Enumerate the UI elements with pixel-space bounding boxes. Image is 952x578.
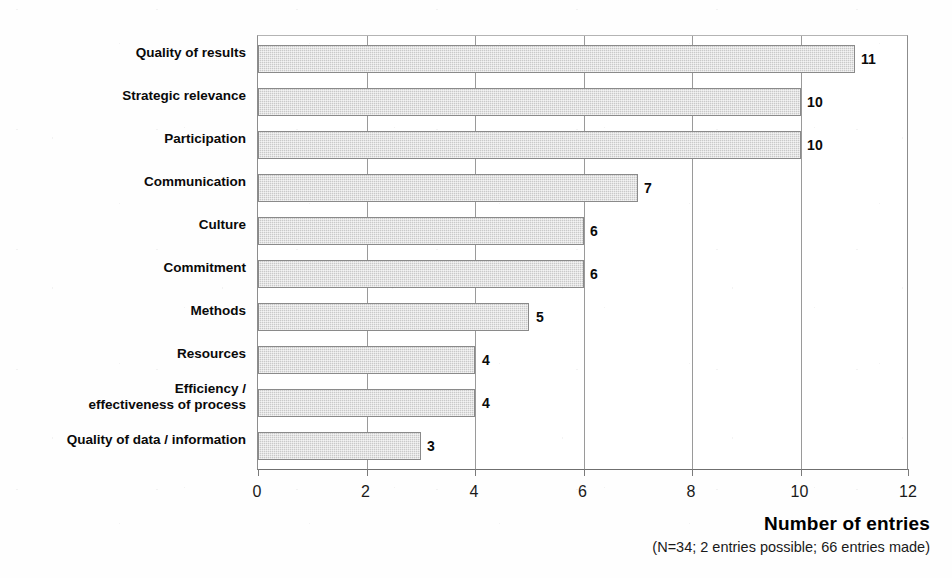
bar[interactable]	[258, 174, 638, 202]
xtick-label-2: 2	[361, 483, 370, 501]
bar-value-label: 6	[590, 223, 598, 239]
category-label: Efficiency / effectiveness of process	[88, 381, 246, 412]
bar-row: 4	[258, 346, 907, 374]
category-label: Participation	[164, 131, 246, 147]
bar[interactable]	[258, 303, 529, 331]
category-label: Quality of data / information	[67, 432, 246, 448]
category-label: Quality of results	[136, 45, 246, 61]
bar[interactable]	[258, 389, 475, 417]
plot-area: 11 10 10 7 6 6 5 4	[257, 35, 908, 470]
xtick-mark-8	[692, 469, 693, 476]
xtick-label-10: 10	[791, 483, 809, 501]
bar-row: 10	[258, 131, 907, 159]
category-label: Communication	[144, 174, 246, 190]
bar-value-label: 4	[482, 352, 490, 368]
bar-value-label: 11	[861, 51, 876, 67]
xtick-label-6: 6	[578, 483, 587, 501]
x-axis-note: (N=34; 2 entries possible; 66 entries ma…	[0, 539, 930, 555]
category-label: Strategic relevance	[122, 88, 246, 104]
xtick-label-4: 4	[470, 483, 479, 501]
bar[interactable]	[258, 346, 475, 374]
bar-row: 6	[258, 217, 907, 245]
xtick-label-12: 12	[899, 483, 917, 501]
bar-value-label: 5	[536, 309, 544, 325]
xtick-label-0: 0	[253, 483, 262, 501]
bar-value-label: 6	[590, 266, 598, 282]
bar[interactable]	[258, 88, 801, 116]
bar[interactable]	[258, 432, 421, 460]
bar[interactable]	[258, 131, 801, 159]
x-axis-title: Number of entries	[0, 513, 930, 535]
bar-value-label: 7	[644, 180, 652, 196]
category-label: Methods	[191, 303, 247, 319]
xtick-mark-0	[258, 469, 259, 476]
bar-row: 5	[258, 303, 907, 331]
chart-figure: Quality of results Strategic relevance P…	[0, 0, 952, 578]
bar-row: 3	[258, 432, 907, 460]
category-label: Resources	[177, 346, 246, 362]
bar-value-label: 10	[807, 94, 823, 110]
bar-row: 10	[258, 88, 907, 116]
bar[interactable]	[258, 217, 584, 245]
bar[interactable]	[258, 45, 855, 73]
xtick-label-8: 8	[687, 483, 696, 501]
xtick-mark-6	[584, 469, 585, 476]
bar-value-label: 4	[482, 395, 490, 411]
bar-row: 7	[258, 174, 907, 202]
category-label: Culture	[199, 217, 246, 233]
xtick-mark-12	[908, 469, 909, 476]
bar-value-label: 10	[807, 137, 823, 153]
category-label: Commitment	[163, 260, 246, 276]
xtick-mark-2	[367, 469, 368, 476]
bar[interactable]	[258, 260, 584, 288]
bar-row: 6	[258, 260, 907, 288]
xtick-mark-10	[801, 469, 802, 476]
bar-row: 11	[258, 45, 907, 73]
xtick-mark-4	[475, 469, 476, 476]
bar-row: 4	[258, 389, 907, 417]
bar-value-label: 3	[427, 438, 435, 454]
